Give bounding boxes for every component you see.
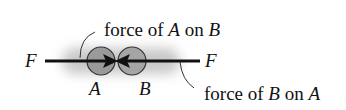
callout-bottom: force of B on A <box>204 84 320 103</box>
callout-leader-bottom <box>180 62 194 88</box>
callout-top: force of A on B <box>104 20 220 39</box>
left-force-label: F <box>25 51 37 70</box>
body-a-label: A <box>89 79 101 98</box>
body-b-label: B <box>139 79 151 98</box>
right-force-label: F <box>205 51 217 70</box>
